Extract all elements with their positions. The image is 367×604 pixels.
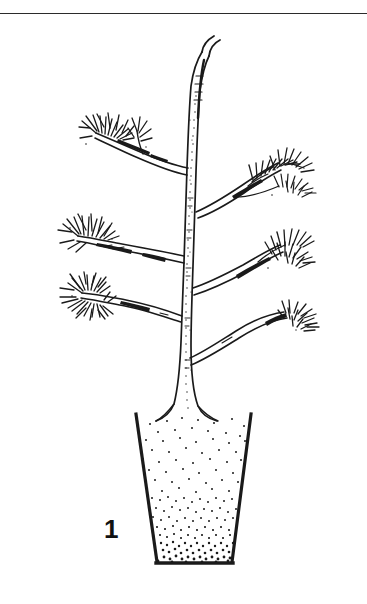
figure-number-label: 1: [104, 516, 118, 542]
sapling-illustration: [0, 0, 367, 604]
branch-upper-left: [79, 113, 188, 175]
foliage-tuft-upper-left: [79, 113, 152, 141]
branch-upper-right: [196, 148, 316, 218]
pot-left-wall: [136, 414, 157, 562]
figure-container: 1: [0, 0, 367, 604]
foliage-tuft-lower-left: [60, 272, 116, 320]
branch-middle-right: [193, 229, 315, 295]
central-leader: [156, 36, 220, 421]
branch-lower-right: [190, 300, 319, 365]
foliage-tuft-upper-right-lower: [274, 174, 316, 197]
branch-lower-left: [60, 272, 182, 322]
branch-middle-left: [58, 214, 184, 263]
soil-stipple: [142, 417, 249, 563]
planting-pot: [136, 404, 251, 563]
pot-right-wall: [232, 414, 251, 562]
